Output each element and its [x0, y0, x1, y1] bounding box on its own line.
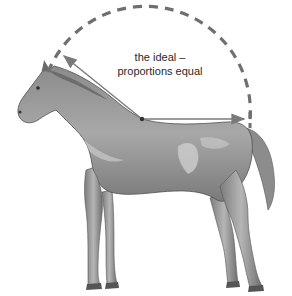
diagram-canvas	[0, 0, 292, 296]
horse-hoof	[105, 282, 119, 289]
label-line-2: proportions equal	[100, 64, 220, 78]
withers-point	[140, 117, 144, 121]
label-line-1: the ideal –	[100, 50, 220, 64]
horse-hoof	[248, 285, 264, 292]
proportion-label: the ideal – proportions equal	[100, 50, 220, 78]
horse-hoof	[226, 281, 240, 288]
horse-body	[18, 64, 252, 201]
horse-far-fore-leg	[102, 190, 117, 285]
horse-nostril	[18, 110, 21, 113]
horse-eye	[36, 86, 40, 90]
horse-proportion-diagram: the ideal – proportions equal	[0, 0, 292, 296]
horse-hoof	[86, 283, 102, 290]
horse-illustration	[18, 60, 275, 292]
horse-near-fore-leg	[85, 168, 103, 286]
